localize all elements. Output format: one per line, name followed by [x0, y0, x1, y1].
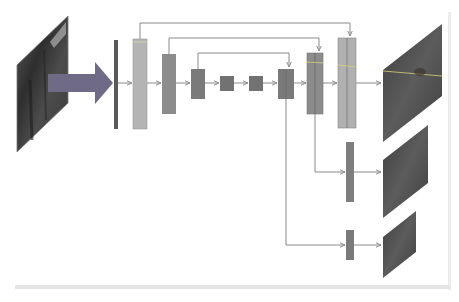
side-branches: [286, 99, 381, 245]
side-head-small: [346, 230, 354, 260]
bottleneck-block-2: [249, 76, 263, 91]
encoder-block-2: [162, 54, 176, 114]
encoder-block-3: [191, 69, 205, 99]
decoder-block-2: [307, 53, 323, 114]
decoder-block-3: [278, 69, 294, 99]
side-head-mid: [346, 142, 354, 202]
frame-border-right: [448, 12, 451, 290]
encoder-block-1: [133, 39, 147, 129]
output-image-full: [383, 24, 442, 142]
input-bar: [114, 40, 118, 129]
frame-border-bottom: [15, 285, 451, 289]
decoder-block-1: [338, 38, 356, 128]
network-diagram: [0, 0, 459, 302]
figure-caption: [0, 291, 459, 302]
bottleneck-block-1: [220, 76, 234, 91]
output-image-small: [383, 211, 416, 278]
output-image-mid: [383, 125, 428, 218]
